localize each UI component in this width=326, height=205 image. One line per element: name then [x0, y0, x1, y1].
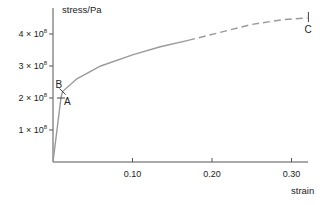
point-annotations: ABC — [56, 12, 312, 107]
y-tick-label: 3 × 108 — [18, 60, 47, 71]
label-b: B — [56, 79, 63, 90]
curve-dashed — [188, 18, 307, 40]
y-ticks: 1 × 1082 × 1083 × 1084 × 108 — [18, 28, 53, 135]
stress-strain-chart: 1 × 1082 × 1083 × 1084 × 108 0.100.200.3… — [0, 0, 326, 205]
x-tick-label: 0.20 — [203, 169, 221, 179]
y-tick-label: 2 × 108 — [18, 92, 47, 103]
x-tick-label: 0.30 — [283, 169, 301, 179]
curve-solid — [53, 40, 188, 162]
label-c: C — [304, 24, 311, 35]
y-axis-title: stress/Pa — [62, 4, 102, 15]
label-a: A — [64, 96, 71, 107]
y-tick-label: 1 × 108 — [18, 124, 47, 135]
x-axis-title: strain — [291, 185, 314, 196]
x-ticks: 0.100.200.30 — [124, 158, 301, 179]
y-tick-label: 4 × 108 — [18, 28, 47, 39]
x-tick-label: 0.10 — [124, 169, 142, 179]
